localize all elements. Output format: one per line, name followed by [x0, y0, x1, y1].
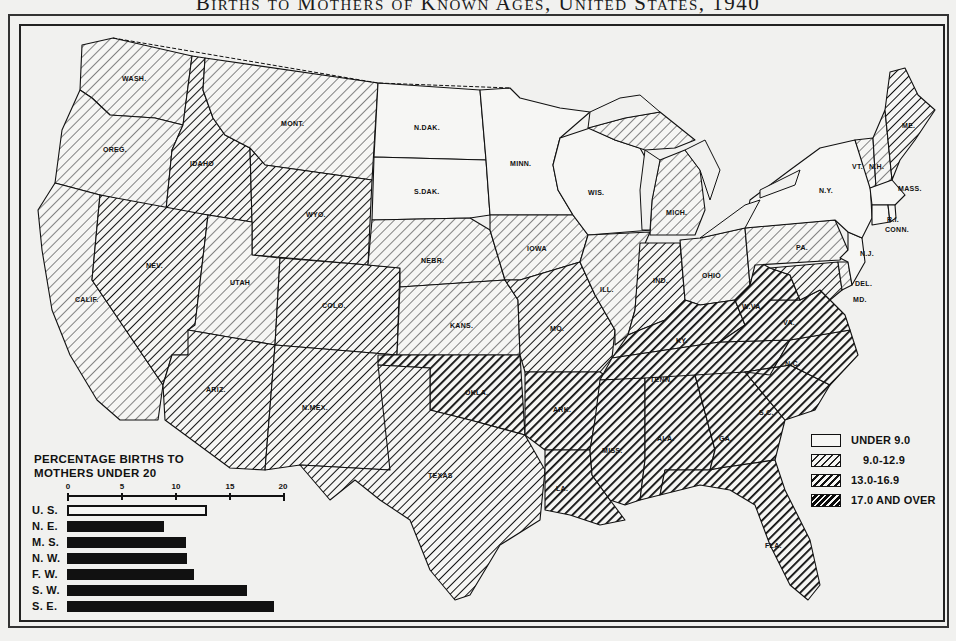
label-la: LA.	[556, 485, 568, 492]
chart-bar	[67, 569, 194, 580]
label-sc: S.C.	[759, 409, 774, 416]
state-kans	[397, 280, 520, 355]
label-ill: ILL.	[600, 286, 614, 293]
legend-item-9-12: 9.0-12.9	[811, 450, 936, 470]
legend-label: 9.0-12.9	[863, 454, 905, 466]
legend-swatch-blank	[811, 434, 841, 447]
state-ohio	[680, 228, 750, 305]
bar-category-label: N. W.	[32, 552, 67, 564]
label-sdak: S.DAK.	[414, 188, 440, 195]
chart-bar-row: S. E.	[32, 598, 292, 614]
chart-bar-row: N. W.	[32, 550, 292, 566]
legend-swatch-dark-hatch	[811, 494, 841, 507]
label-nev: NEV.	[146, 262, 163, 269]
chart-bar-row: M. S.	[32, 534, 292, 550]
chart-bar	[67, 537, 186, 548]
label-colo: COLO.	[322, 302, 346, 309]
axis-tick	[121, 493, 123, 500]
axis-tick-label: 5	[120, 482, 124, 491]
bar-category-label: N. E.	[32, 520, 67, 532]
label-conn: CONN.	[885, 226, 909, 233]
label-mont: MONT.	[281, 120, 304, 127]
label-ind: IND.	[653, 277, 668, 284]
label-ky: KY.	[676, 337, 688, 344]
chart-bar-row: N. E.	[32, 518, 292, 534]
label-nj: N.J.	[860, 250, 874, 257]
chart-bar	[67, 601, 274, 612]
chart-bar	[67, 553, 187, 564]
label-nmex: N.MEX.	[302, 404, 328, 411]
label-ri: R.I.	[887, 216, 899, 223]
chart-bars: U. S.N. E.M. S.N. W.F. W.S. W.S. E.	[32, 502, 292, 614]
label-nc: N.C.	[785, 360, 800, 367]
legend-item-17-over: 17.0 AND OVER	[811, 490, 936, 510]
label-ga: GA.	[719, 435, 732, 442]
axis-tick-label: 0	[66, 482, 70, 491]
label-fla: FLA.	[765, 542, 782, 549]
label-ohio: OHIO	[702, 272, 721, 279]
bar-category-label: S. E.	[32, 600, 67, 612]
axis-tick-label: 10	[172, 482, 181, 491]
legend-swatch-light-hatch	[811, 454, 841, 467]
axis-tick	[67, 493, 69, 501]
label-me: ME.	[902, 122, 915, 129]
bar-category-label: F. W.	[32, 568, 67, 580]
chart-bar-row: U. S.	[32, 502, 292, 518]
label-kans: KANS.	[450, 322, 473, 329]
chart-bar	[67, 521, 164, 532]
label-nebr: NEBR.	[421, 257, 444, 264]
axis-tick-label: 15	[226, 482, 235, 491]
legend-label: UNDER 9.0	[851, 434, 910, 446]
label-mo: MO.	[550, 325, 564, 332]
label-oreg: OREG.	[103, 146, 127, 153]
label-nh: N.H.	[869, 163, 884, 170]
label-wis: WIS.	[588, 189, 604, 196]
label-vt: VT.	[852, 163, 863, 170]
label-ariz: ARIZ.	[206, 386, 226, 393]
inset-bar-chart: PERCENTAGE BIRTHS TO MOTHERS UNDER 20 0 …	[32, 452, 292, 614]
label-idaho: IDAHO	[190, 160, 214, 167]
legend-label: 13.0-16.9	[851, 474, 899, 486]
label-tenn: TENN.	[650, 376, 673, 383]
label-md: MD.	[853, 296, 867, 303]
legend-item-13-16: 13.0-16.9	[811, 470, 936, 490]
label-wyo: WYO.	[306, 211, 326, 218]
label-texas: TEXAS	[428, 472, 453, 479]
label-ark: ARK.	[553, 406, 571, 413]
legend-label: 17.0 AND OVER	[851, 494, 936, 506]
label-wash: WASH.	[122, 75, 146, 82]
label-iowa: IOWA	[527, 245, 547, 252]
axis-tick-label: 20	[279, 482, 288, 491]
map-legend: UNDER 9.0 9.0-12.9 13.0-16.9 17.0 AND OV…	[811, 430, 936, 510]
label-okla: OKLA.	[465, 389, 488, 396]
chart-bar-row: F. W.	[32, 566, 292, 582]
label-mich: MICH.	[666, 209, 687, 216]
label-calif: CALIF.	[75, 296, 99, 303]
legend-item-under-9: UNDER 9.0	[811, 430, 936, 450]
bar-category-label: S. W.	[32, 584, 67, 596]
label-utah: UTAH	[230, 279, 250, 286]
axis-tick	[175, 493, 177, 500]
label-wva: W.VA.	[742, 303, 763, 310]
chart-x-axis: 0 5 10 15 20	[67, 482, 284, 502]
bar-category-label: M. S.	[32, 536, 67, 548]
label-ala: ALA.	[657, 435, 675, 442]
state-ndak	[374, 83, 486, 160]
legend-swatch-medium-hatch	[811, 474, 841, 487]
label-ny: N.Y.	[819, 187, 833, 194]
axis-tick	[283, 493, 285, 501]
label-va: VA.	[783, 319, 795, 326]
label-mass: MASS.	[898, 185, 922, 192]
chart-bar	[67, 505, 207, 516]
axis-tick	[229, 493, 231, 500]
chart-bar	[67, 585, 247, 596]
label-miss: MISS.	[602, 447, 623, 454]
label-pa: PA.	[796, 244, 808, 251]
chart-bar-row: S. W.	[32, 582, 292, 598]
label-del: DEL.	[855, 280, 872, 287]
chart-title: PERCENTAGE BIRTHS TO MOTHERS UNDER 20	[34, 452, 204, 480]
label-ndak: N.DAK.	[414, 124, 440, 131]
label-minn: MINN.	[510, 160, 531, 167]
bar-category-label: U. S.	[32, 504, 67, 516]
state-fla	[660, 460, 820, 600]
